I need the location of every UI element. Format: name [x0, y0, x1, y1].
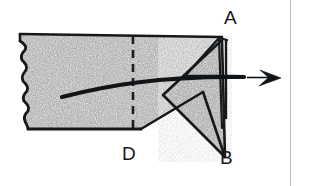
figure-container: A B D: [0, 0, 309, 186]
arrow-head: [247, 70, 281, 86]
label-b: B: [220, 148, 233, 167]
label-a: A: [224, 8, 237, 27]
page-margin-rule: [290, 0, 291, 186]
label-d: D: [122, 144, 136, 163]
folded-sheet-diagram: [0, 0, 309, 186]
